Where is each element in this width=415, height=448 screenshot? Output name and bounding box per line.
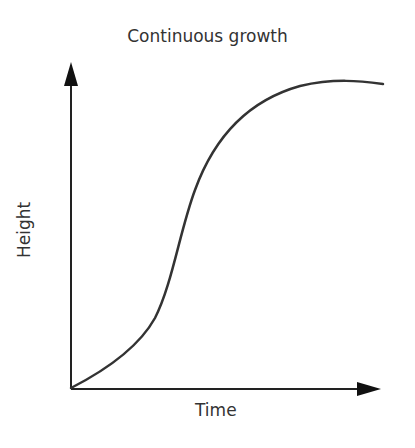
growth-chart [0, 0, 415, 448]
y-axis-arrow-icon [64, 62, 78, 86]
y-axis-label: Height [14, 202, 34, 258]
growth-curve [71, 81, 383, 388]
x-axis-arrow-icon [357, 382, 381, 396]
x-axis-label: Time [195, 400, 237, 420]
